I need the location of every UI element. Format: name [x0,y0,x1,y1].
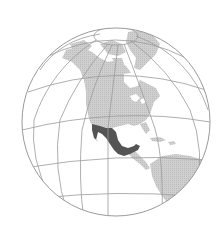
land-south-america [150,154,214,222]
map-figure: Location of Mexico [0,0,224,234]
globe [0,0,224,234]
